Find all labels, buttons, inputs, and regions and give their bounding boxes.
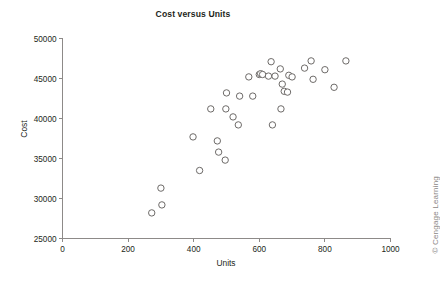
data-point: [159, 202, 165, 208]
svg-text:40000: 40000: [34, 115, 57, 124]
svg-text:45000: 45000: [34, 75, 57, 84]
svg-text:0: 0: [60, 245, 65, 254]
data-point: [308, 58, 314, 64]
data-point: [158, 185, 164, 191]
data-point: [284, 89, 290, 95]
data-point: [265, 73, 271, 79]
data-point: [215, 149, 221, 155]
tick-marks-group: [59, 39, 391, 243]
data-point: [223, 90, 229, 96]
x-axis-label: Units: [62, 258, 390, 268]
svg-text:1000: 1000: [381, 245, 400, 254]
data-point: [236, 93, 242, 99]
data-point: [222, 157, 228, 163]
svg-text:800: 800: [318, 245, 332, 254]
data-point: [310, 76, 316, 82]
data-point: [250, 93, 256, 99]
data-point: [343, 58, 349, 64]
x-tick-labels: 02004006008001000: [60, 245, 400, 254]
data-point: [272, 73, 278, 79]
data-point: [301, 65, 307, 71]
data-points-group: [149, 58, 350, 216]
y-axis-label: Cost: [19, 99, 29, 159]
data-point: [289, 74, 295, 80]
svg-text:200: 200: [121, 245, 135, 254]
data-point: [223, 106, 229, 112]
data-point: [268, 59, 274, 65]
svg-text:25000: 25000: [34, 235, 57, 244]
data-point: [278, 106, 284, 112]
data-point: [322, 67, 328, 73]
data-point: [277, 66, 283, 72]
axes-group: [63, 39, 391, 239]
data-point: [190, 134, 196, 140]
svg-text:35000: 35000: [34, 155, 57, 164]
svg-text:50000: 50000: [34, 35, 57, 44]
data-point: [269, 122, 275, 128]
data-point: [196, 167, 202, 173]
svg-text:30000: 30000: [34, 195, 57, 204]
data-point: [259, 71, 265, 77]
data-point: [235, 122, 241, 128]
data-point: [208, 106, 214, 112]
y-tick-labels: 250003000035000400004500050000: [34, 35, 57, 244]
svg-text:600: 600: [252, 245, 266, 254]
copyright-credit: © Cengage Learning: [431, 176, 440, 254]
data-point: [331, 84, 337, 90]
data-point: [149, 210, 155, 216]
svg-text:400: 400: [187, 245, 201, 254]
data-point: [279, 81, 285, 87]
data-point: [246, 74, 252, 80]
data-point: [214, 138, 220, 144]
data-point: [230, 114, 236, 120]
